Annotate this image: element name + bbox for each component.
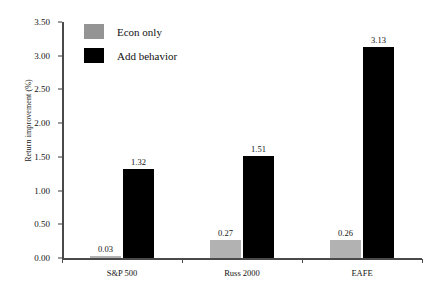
bar-add-behavior[interactable] [243,156,274,258]
bar-econ-only[interactable] [210,240,241,258]
y-axis-tick-label: 3.50 [0,17,50,27]
bar-value-label: 0.03 [98,244,113,254]
y-axis-tick-mark [58,156,62,157]
x-axis-category-label: EAFE [351,268,372,278]
legend-item[interactable]: Add behavior [84,48,177,63]
legend-item[interactable]: Econ only [84,24,177,39]
bar-value-label: 0.26 [338,228,353,238]
y-axis-tick-label: 1.00 [0,186,50,196]
bar-value-label: 1.32 [131,157,146,167]
y-axis-tick-mark [58,224,62,225]
bar-econ-only[interactable] [330,240,361,258]
y-axis-spine [62,22,64,258]
x-axis-category-label: S&P 500 [107,268,138,278]
bar-add-behavior[interactable] [123,169,154,258]
x-axis-tick-mark [422,259,423,263]
x-axis-tick-mark [62,259,63,263]
y-axis-tick-mark [58,258,62,259]
legend-label: Econ only [117,26,162,38]
y-axis-tick-labels: 0.000.501.001.502.002.503.003.50 [0,0,58,291]
y-axis-tick-label: 3.00 [0,51,50,61]
y-axis-tick-mark [58,190,62,191]
y-axis-tick-label: 0.00 [0,253,50,263]
bar-value-label: 1.51 [251,144,266,154]
y-axis-tick-label: 2.00 [0,118,50,128]
bar-value-label: 3.13 [371,35,386,45]
legend-label: Add behavior [117,50,177,62]
x-axis-tick-mark [182,259,183,263]
y-axis-tick-mark [58,55,62,56]
y-axis-tick-mark [58,123,62,124]
legend-swatch-add-behavior [84,48,104,63]
bar-value-label: 0.27 [218,228,233,238]
chart-legend: Econ onlyAdd behavior [84,24,177,72]
x-axis-spine [62,258,422,260]
y-axis-tick-label: 0.50 [0,219,50,229]
y-axis-tick-label: 1.50 [0,152,50,162]
x-axis-category-label: Russ 2000 [224,268,260,278]
x-axis-tick-mark [302,259,303,263]
legend-swatch-econ-only [84,24,104,39]
y-axis-tick-mark [58,89,62,90]
y-axis-tick-label: 2.50 [0,84,50,94]
bar-add-behavior[interactable] [363,47,394,258]
y-axis-tick-mark [58,22,62,23]
bar-chart-figure: Return improvement (%) 0.000.501.001.502… [0,0,447,291]
